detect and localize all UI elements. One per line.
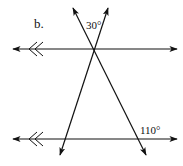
part-label: b. <box>34 16 44 31</box>
angle-label-110: 110° <box>140 124 161 136</box>
angle-label-30: 30° <box>86 19 101 31</box>
geometry-diagram: b. 30° 110° <box>0 0 183 166</box>
